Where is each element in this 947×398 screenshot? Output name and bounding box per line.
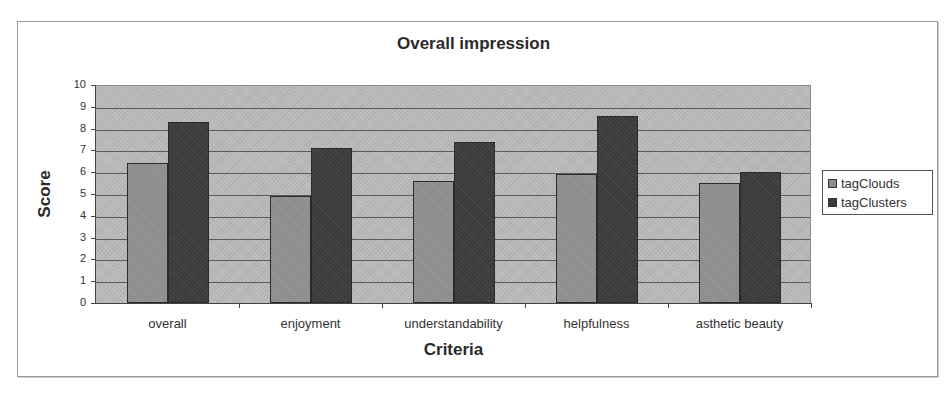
bar-tagClouds-overall bbox=[127, 163, 168, 303]
bar-tagClusters-understandability bbox=[454, 142, 495, 303]
y-tick-label: 3 bbox=[62, 231, 86, 243]
x-category-label: asthetic beauty bbox=[668, 316, 811, 331]
x-tick bbox=[239, 303, 240, 308]
x-tick bbox=[811, 303, 812, 308]
y-tick bbox=[91, 172, 96, 173]
y-tick-label: 1 bbox=[62, 274, 86, 286]
y-tick bbox=[91, 107, 96, 108]
y-tick-label: 2 bbox=[62, 252, 86, 264]
y-tick-label: 5 bbox=[62, 187, 86, 199]
y-tick-label: 4 bbox=[62, 209, 86, 221]
y-tick-label: 10 bbox=[62, 78, 86, 90]
y-tick bbox=[91, 150, 96, 151]
x-axis-line bbox=[95, 303, 812, 304]
x-axis-title: Criteria bbox=[96, 340, 811, 360]
y-tick-label: 0 bbox=[62, 296, 86, 308]
x-category-label: overall bbox=[96, 316, 239, 331]
y-tick bbox=[91, 281, 96, 282]
bar-tagClusters-overall bbox=[168, 122, 209, 303]
x-category-label: understandability bbox=[382, 316, 525, 331]
y-tick bbox=[91, 259, 96, 260]
bar-tagClouds-helpfulness bbox=[556, 174, 597, 303]
y-tick bbox=[91, 216, 96, 217]
bar-tagClusters-enjoyment bbox=[311, 148, 352, 303]
gridline bbox=[96, 108, 810, 109]
y-tick bbox=[91, 194, 96, 195]
bar-tagClouds-enjoyment bbox=[270, 196, 311, 303]
legend-swatch-icon bbox=[828, 198, 837, 207]
bar-tagClusters-asthetic-beauty bbox=[740, 172, 781, 303]
x-category-label: enjoyment bbox=[239, 316, 382, 331]
bar-tagClouds-understandability bbox=[413, 181, 454, 303]
y-tick bbox=[91, 238, 96, 239]
legend-item-tagclouds: tagClouds bbox=[828, 174, 932, 193]
bar-tagClouds-asthetic-beauty bbox=[699, 183, 740, 303]
chart-title: Overall impression bbox=[0, 34, 947, 54]
y-tick-label: 9 bbox=[62, 100, 86, 112]
x-tick bbox=[668, 303, 669, 308]
y-axis-title: Score bbox=[35, 170, 55, 217]
legend-label: tagClusters bbox=[841, 195, 907, 210]
legend-swatch-icon bbox=[828, 179, 837, 188]
legend-label: tagClouds bbox=[841, 176, 900, 191]
x-category-label: helpfulness bbox=[525, 316, 668, 331]
y-tick bbox=[91, 303, 96, 304]
legend: tagClouds tagClusters bbox=[822, 170, 933, 215]
y-tick bbox=[91, 129, 96, 130]
x-tick bbox=[382, 303, 383, 308]
bar-tagClusters-helpfulness bbox=[597, 116, 638, 303]
y-tick-label: 7 bbox=[62, 143, 86, 155]
y-tick-label: 6 bbox=[62, 165, 86, 177]
x-tick bbox=[525, 303, 526, 308]
y-tick bbox=[91, 85, 96, 86]
y-tick-label: 8 bbox=[62, 122, 86, 134]
legend-item-tagclusters: tagClusters bbox=[828, 193, 932, 212]
